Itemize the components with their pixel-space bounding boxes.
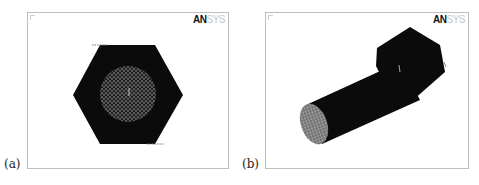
hexagon-nut-mesh (73, 45, 183, 144)
bolt-hole-mesh (100, 66, 156, 122)
boundary-marker (444, 62, 446, 67)
panel-caption-a: (a) (4, 157, 21, 171)
mesh-graphics (0, 0, 479, 185)
panel-caption-b: (b) (242, 157, 259, 171)
bolt-mesh (295, 27, 446, 148)
